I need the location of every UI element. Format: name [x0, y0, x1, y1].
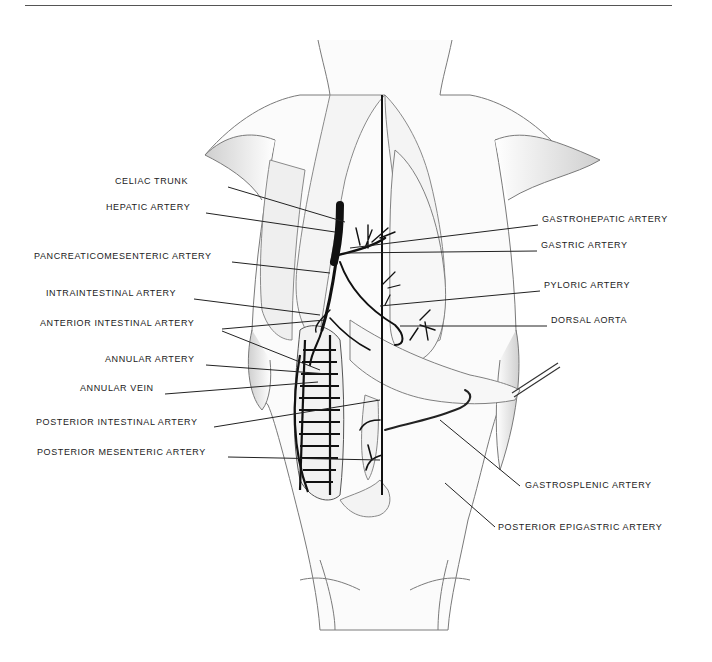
- label-gastrohepatic-artery: GASTROHEPATIC ARTERY: [542, 214, 668, 225]
- label-posterior-intestinal-artery: POSTERIOR INTESTINAL ARTERY: [36, 417, 198, 428]
- label-intraintestinal-artery: INTRAINTESTINAL ARTERY: [46, 288, 176, 299]
- label-gastric-artery: GASTRIC ARTERY: [541, 240, 628, 251]
- label-anterior-intestinal-artery: ANTERIOR INTESTINAL ARTERY: [40, 318, 194, 329]
- label-hepatic-artery: HEPATIC ARTERY: [106, 202, 190, 213]
- shark-illustration: [0, 0, 712, 662]
- label-pyloric-artery: PYLORIC ARTERY: [544, 280, 630, 291]
- label-celiac-trunk: CELIAC TRUNK: [115, 176, 188, 187]
- label-posterior-mesenteric-artery: POSTERIOR MESENTERIC ARTERY: [37, 447, 206, 458]
- anatomy-figure: CELIAC TRUNK HEPATIC ARTERY PANCREATICOM…: [0, 0, 712, 662]
- label-posterior-epigastric-artery: POSTERIOR EPIGASTRIC ARTERY: [498, 522, 662, 533]
- label-annular-vein: ANNULAR VEIN: [80, 383, 154, 394]
- label-pancreaticomesenteric-artery: PANCREATICOMESENTERIC ARTERY: [34, 251, 212, 262]
- label-annular-artery: ANNULAR ARTERY: [105, 354, 195, 365]
- label-gastrosplenic-artery: GASTROSPLENIC ARTERY: [525, 480, 652, 491]
- label-dorsal-aorta: DORSAL AORTA: [551, 315, 627, 326]
